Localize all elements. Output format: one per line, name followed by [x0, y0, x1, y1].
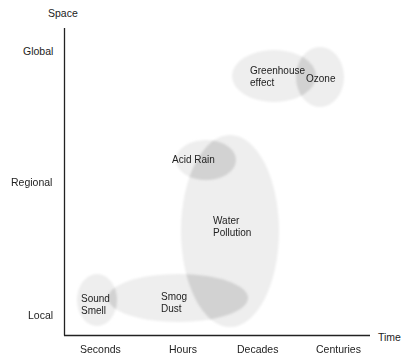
y-tick-global: Global: [23, 45, 53, 57]
label-smog-dust: Smog Dust: [161, 291, 187, 315]
diagram-graphics: [0, 0, 417, 363]
space-time-diagram: Space Time Global Regional Local Seconds…: [0, 0, 417, 363]
x-axis-title: Time: [378, 331, 401, 343]
label-greenhouse-effect: Greenhouse effect: [250, 65, 305, 89]
y-tick-regional: Regional: [11, 176, 52, 188]
x-tick-seconds: Seconds: [80, 343, 121, 355]
y-tick-local: Local: [28, 309, 53, 321]
label-ozone: Ozone: [306, 73, 335, 85]
label-acid-rain: Acid Rain: [172, 154, 215, 166]
y-axis-title: Space: [48, 7, 78, 19]
label-sound-smell: Sound Smell: [81, 293, 110, 317]
x-tick-hours: Hours: [169, 343, 197, 355]
x-tick-centuries: Centuries: [316, 343, 361, 355]
x-tick-decades: Decades: [237, 343, 278, 355]
label-water-pollution: Water Pollution: [213, 215, 251, 239]
